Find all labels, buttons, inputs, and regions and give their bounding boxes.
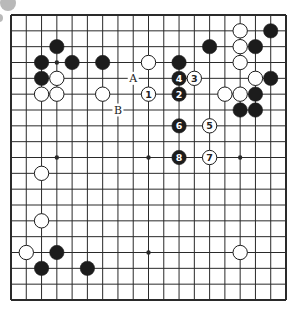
white-stone — [50, 71, 64, 85]
black-stone — [95, 55, 109, 69]
move-number-6: 6 — [176, 120, 183, 131]
black-stone — [34, 71, 48, 85]
white-stone — [34, 214, 48, 228]
go-board: AB 12345678 — [0, 0, 296, 310]
letter-mark-b: B — [114, 104, 122, 117]
black-stone — [34, 261, 48, 275]
move-number-2: 2 — [176, 89, 183, 100]
white-stone — [95, 87, 109, 101]
white-stone — [218, 87, 232, 101]
black-stone — [34, 55, 48, 69]
black-stone — [248, 39, 262, 53]
black-stone — [65, 55, 79, 69]
move-number-3: 3 — [191, 73, 198, 84]
white-stone — [233, 24, 247, 38]
white-stone — [141, 55, 155, 69]
white-stone — [233, 87, 247, 101]
move-number-1: 1 — [145, 89, 152, 100]
move-number-8: 8 — [176, 152, 183, 163]
star-point — [55, 60, 59, 64]
star-point — [146, 155, 150, 159]
move-number-5: 5 — [206, 120, 213, 131]
black-stone — [80, 261, 94, 275]
white-stone — [50, 87, 64, 101]
black-stone — [233, 103, 247, 117]
black-stone — [248, 103, 262, 117]
star-point — [146, 250, 150, 254]
white-stone — [34, 166, 48, 180]
white-stone — [34, 87, 48, 101]
white-stone — [248, 71, 262, 85]
black-stone — [50, 245, 64, 259]
black-stone — [248, 87, 262, 101]
white-stone — [233, 245, 247, 259]
star-point — [55, 155, 59, 159]
black-stone — [264, 24, 278, 38]
black-stone — [50, 39, 64, 53]
letter-mark-a: A — [128, 72, 138, 85]
move-number-7: 7 — [206, 152, 213, 163]
star-point — [238, 155, 242, 159]
black-stone — [202, 39, 216, 53]
move-number-4: 4 — [176, 73, 183, 84]
white-stone — [19, 245, 33, 259]
white-stone — [233, 55, 247, 69]
white-stone — [233, 39, 247, 53]
black-stone — [172, 55, 186, 69]
black-stone — [264, 71, 278, 85]
